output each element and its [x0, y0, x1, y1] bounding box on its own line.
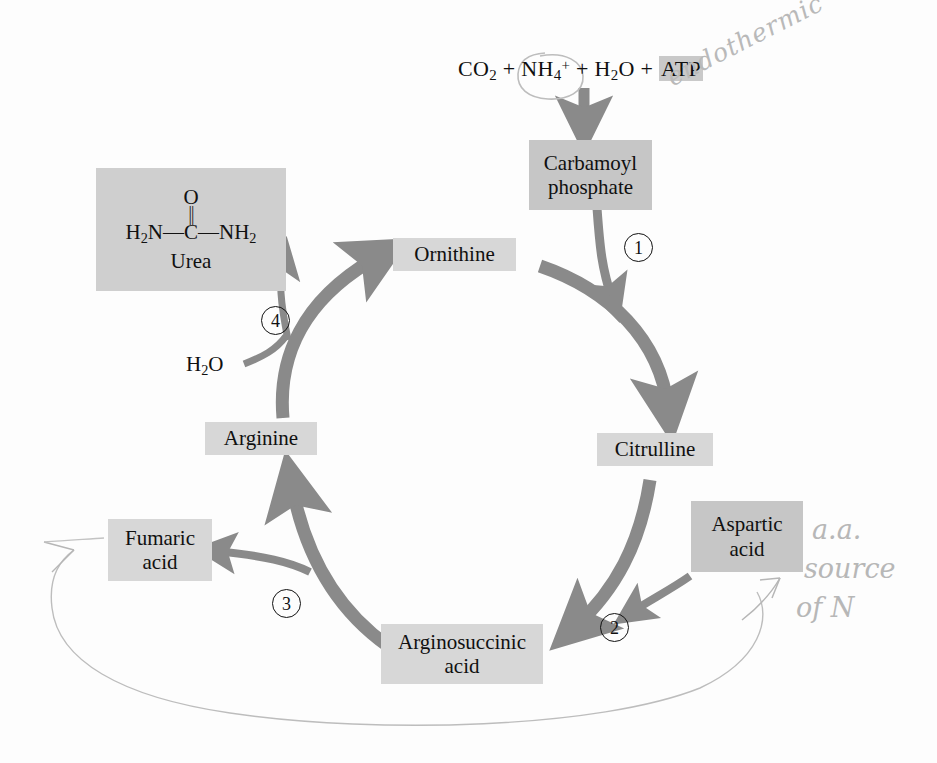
- ornithine-label: Ornithine: [414, 242, 494, 267]
- urea-backbone: H2N—C—NH2: [126, 222, 257, 245]
- pencil-arrow-to-aspartic: [742, 578, 780, 620]
- arrow-arginosuccinic-to-arginine: [292, 486, 388, 646]
- water-input-label: H2O: [186, 352, 223, 379]
- enzyme-step-4[interactable]: 4: [261, 306, 290, 335]
- annotation-endothermic: endothermic: [662, 0, 828, 92]
- urea-structure: O || H2N—C—NH2 Urea: [96, 168, 286, 291]
- annotation-aa-line2: source: [804, 549, 896, 588]
- equation-plus-2: +: [576, 56, 589, 81]
- arrow-water-into-step4: [244, 336, 286, 364]
- arrow-arginine-to-ornithine: [282, 256, 379, 418]
- enzyme-step-2[interactable]: 2: [600, 613, 629, 642]
- enzyme-step-2-label: 2: [610, 619, 619, 637]
- citrulline-label: Citrulline: [615, 437, 696, 462]
- aspartic-acid-line1: Aspartic: [711, 512, 782, 536]
- carbamoyl-phosphate-line2: phosphate: [548, 175, 633, 199]
- urea-double-bond-icon: ||: [189, 206, 194, 222]
- node-arginosuccinic-acid[interactable]: Arginosuccinic acid: [381, 624, 543, 684]
- annotation-aa-line1: a.a.: [812, 510, 896, 549]
- arrow-ornithine-arc-to-citrulline: [540, 266, 668, 408]
- annotation-aa-line3: of N: [796, 588, 896, 627]
- urea-cycle-diagram: CO2 + NH4+ + H2O + ATP Carbamoyl phospha…: [0, 0, 937, 763]
- equation-plus-3: +: [641, 56, 654, 81]
- arrow-citrulline-to-arginosuccinic: [576, 480, 650, 626]
- node-carbamoyl-phosphate[interactable]: Carbamoyl phosphate: [529, 140, 652, 210]
- enzyme-step-3-label: 3: [282, 595, 291, 613]
- equation-plus-1: +: [503, 56, 516, 81]
- equation-h2o: H2O: [595, 56, 635, 81]
- arrow-carbamoyl-to-citrulline: [597, 208, 612, 299]
- fumaric-acid-line2: acid: [143, 550, 178, 574]
- enzyme-step-1-label: 1: [634, 239, 643, 257]
- node-ornithine[interactable]: Ornithine: [393, 238, 516, 271]
- urea-name-label: Urea: [171, 251, 212, 272]
- fumaric-acid-line1: Fumaric: [125, 526, 195, 550]
- annotation-amino-acid-source: a.a. source of N: [812, 510, 896, 627]
- arginine-label: Arginine: [224, 426, 298, 451]
- carbamoyl-phosphate-line1: Carbamoyl: [544, 151, 637, 175]
- node-urea[interactable]: O || H2N—C—NH2 Urea: [96, 168, 286, 291]
- enzyme-step-4-label: 4: [271, 312, 280, 330]
- node-citrulline[interactable]: Citrulline: [597, 433, 713, 466]
- arginosuccinic-acid-line1: Arginosuccinic: [398, 630, 526, 654]
- node-aspartic-acid[interactable]: Aspartic acid: [691, 501, 803, 572]
- equation-co2: CO2: [458, 56, 497, 81]
- node-arginine[interactable]: Arginine: [205, 422, 317, 455]
- enzyme-step-1[interactable]: 1: [624, 233, 653, 262]
- arginosuccinic-acid-line2: acid: [445, 654, 480, 678]
- node-fumaric-acid[interactable]: Fumaric acid: [108, 519, 212, 581]
- arrow-aspartic-into-cycle: [632, 576, 690, 612]
- enzyme-step-3[interactable]: 3: [272, 589, 301, 618]
- aspartic-acid-line2: acid: [730, 537, 765, 561]
- equation-nh4: NH4+: [521, 56, 570, 81]
- arrow-branch-to-fumaric: [216, 551, 310, 572]
